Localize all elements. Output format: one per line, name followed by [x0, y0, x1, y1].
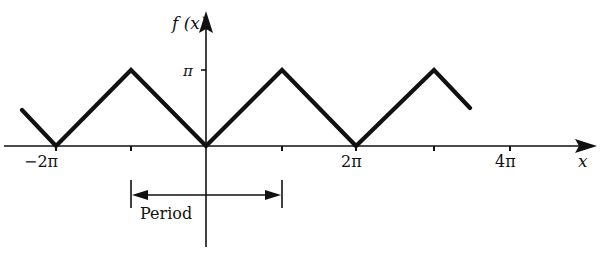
period-label: Period — [140, 204, 192, 223]
x-axis — [4, 139, 597, 153]
x-axis-label: x — [578, 151, 588, 171]
pi-tick-label: π — [182, 62, 194, 80]
two-pi-label: 2π — [341, 152, 362, 171]
y-axis-label: f (x) — [170, 13, 207, 33]
triangle-wave-line — [22, 70, 470, 146]
neg-two-pi-label: −2π — [24, 152, 58, 171]
triangle-wave-chart: f (x) π −2π 2π 4π x Period — [0, 0, 615, 264]
y-axis — [199, 11, 213, 247]
arrow-left-icon — [132, 190, 148, 200]
four-pi-label: 4π — [495, 152, 516, 171]
arrow-right-icon — [265, 190, 281, 200]
